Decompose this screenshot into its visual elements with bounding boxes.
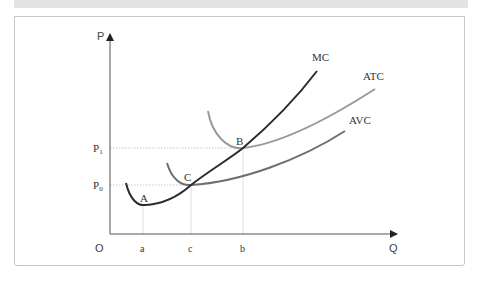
tick-a: a (140, 243, 145, 254)
tick-c: c (188, 243, 193, 254)
avc-curve (167, 131, 345, 185)
point-a-label: A (140, 192, 148, 204)
tick-b: b (240, 243, 245, 254)
p0-label: P0 (93, 179, 103, 193)
cost-curves-diagram: MC ATC AVC A B C P1 P0 P Q O a c b (0, 0, 479, 281)
mc-label: MC (312, 51, 329, 63)
origin-label: O (95, 242, 104, 254)
atc-label: ATC (363, 70, 384, 82)
p1-label: P1 (93, 142, 103, 156)
y-axis-label: P (97, 30, 104, 42)
point-c-label: C (184, 171, 191, 183)
point-b-label: B (236, 135, 243, 147)
avc-label: AVC (349, 114, 371, 126)
x-axis-label: Q (389, 242, 398, 254)
